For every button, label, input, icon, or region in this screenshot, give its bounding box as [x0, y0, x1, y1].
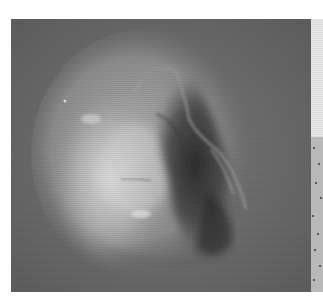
texture-speck [318, 163, 320, 165]
texture-speck [313, 279, 315, 281]
texture-speck [315, 182, 317, 184]
satellite-photo [11, 19, 311, 292]
adjacent-image-strip-light [311, 19, 323, 137]
adjacent-image-strip-textured [311, 137, 323, 292]
texture-speck [312, 215, 314, 217]
texture-speck [317, 233, 319, 235]
texture-speck [320, 197, 322, 199]
texture-speck [313, 147, 315, 149]
texture-speck [314, 249, 316, 251]
scanline-overlay [11, 19, 311, 292]
texture-speck [319, 265, 321, 267]
mesa-rendering [11, 19, 311, 292]
